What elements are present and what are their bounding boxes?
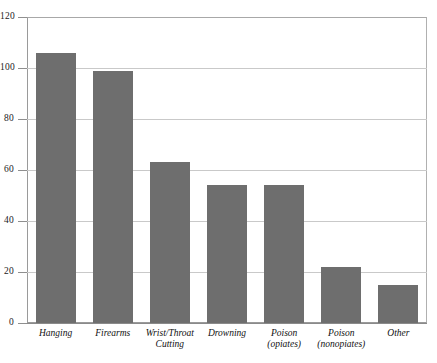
x-axis-label-line: Poison xyxy=(252,328,317,339)
x-axis-label: Firearms xyxy=(80,328,145,339)
bar-chart: 020406080100120 HangingFirearmsWrist/Thr… xyxy=(0,0,437,363)
bar xyxy=(321,267,361,323)
x-axis-label-line: Cutting xyxy=(137,339,202,350)
x-axis-label: Hanging xyxy=(23,328,88,339)
x-axis-label-line: (nonopiates) xyxy=(309,339,374,350)
bar xyxy=(36,53,76,323)
x-axis-label-line: Drowning xyxy=(194,328,259,339)
bar xyxy=(264,185,304,323)
x-axis-label: Other xyxy=(366,328,431,339)
x-axis-label: Wrist/ThroatCutting xyxy=(137,328,202,350)
x-axis-label-line: Hanging xyxy=(23,328,88,339)
x-axis-label: Poison(nonopiates) xyxy=(309,328,374,350)
bars-layer xyxy=(0,0,437,363)
x-axis-label: Drowning xyxy=(194,328,259,339)
bar xyxy=(93,71,133,323)
x-axis-label-line: (opiates) xyxy=(252,339,317,350)
x-axis-label-line: Firearms xyxy=(80,328,145,339)
bar xyxy=(378,285,418,323)
x-axis-label-line: Wrist/Throat xyxy=(137,328,202,339)
x-axis-label-line: Other xyxy=(366,328,431,339)
x-axis-label: Poison(opiates) xyxy=(252,328,317,350)
bar xyxy=(207,185,247,323)
x-axis-label-line: Poison xyxy=(309,328,374,339)
bar xyxy=(150,162,190,323)
